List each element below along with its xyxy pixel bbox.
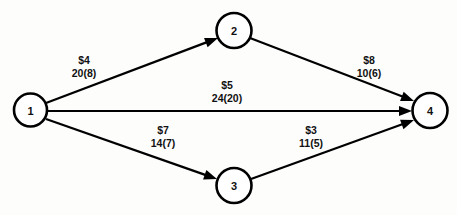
edge-capacity-label: 11(5) xyxy=(299,137,323,149)
edge-2-to-4 xyxy=(250,38,414,101)
nodes-layer: 1234 xyxy=(14,13,448,203)
arrowhead-icon xyxy=(400,120,414,129)
edge-label-1-3: $714(7) xyxy=(151,124,176,149)
edge-cost-label: $4 xyxy=(78,54,90,66)
edges-layer xyxy=(46,38,414,179)
network-diagram-canvas: 1234 $420(8)$810(6)$524(20)$714(7)$311(5… xyxy=(0,0,457,215)
node-2[interactable]: 2 xyxy=(217,13,252,48)
edge-label-3-4: $311(5) xyxy=(299,124,323,149)
edge-3-to-4 xyxy=(251,120,414,179)
edge-label-1-2: $420(8) xyxy=(72,54,97,79)
edge-capacity-label: 20(8) xyxy=(72,67,97,79)
arrowhead-icon xyxy=(400,92,414,101)
edge-shaft xyxy=(46,42,208,103)
edge-labels-layer: $420(8)$810(6)$524(20)$714(7)$311(5) xyxy=(72,54,382,149)
edge-cost-label: $3 xyxy=(305,124,317,136)
arrowhead-icon xyxy=(203,170,217,179)
edge-label-2-4: $810(6) xyxy=(357,54,382,79)
edge-cost-label: $7 xyxy=(157,124,169,136)
edge-shaft xyxy=(46,119,207,175)
network-diagram-svg: 1234 $420(8)$810(6)$524(20)$714(7)$311(5… xyxy=(0,0,457,215)
edge-label-1-4: $524(20) xyxy=(212,79,242,104)
edge-shaft xyxy=(251,124,404,179)
edge-capacity-label: 10(6) xyxy=(357,67,382,79)
arrowhead-icon xyxy=(399,106,412,116)
edge-cost-label: $5 xyxy=(221,79,233,91)
node-3[interactable]: 3 xyxy=(217,168,252,203)
edge-capacity-label: 24(20) xyxy=(212,92,242,104)
node-label: 1 xyxy=(27,105,33,117)
node-4[interactable]: 4 xyxy=(413,93,448,128)
edge-cost-label: $8 xyxy=(363,54,375,66)
node-label: 4 xyxy=(427,105,434,117)
node-1[interactable]: 1 xyxy=(14,94,47,127)
arrowhead-icon xyxy=(204,38,218,47)
edge-1-to-3 xyxy=(46,119,217,179)
node-label: 3 xyxy=(231,180,237,192)
edge-capacity-label: 14(7) xyxy=(151,137,176,149)
node-label: 2 xyxy=(231,25,237,37)
edge-1-to-4 xyxy=(47,106,412,116)
